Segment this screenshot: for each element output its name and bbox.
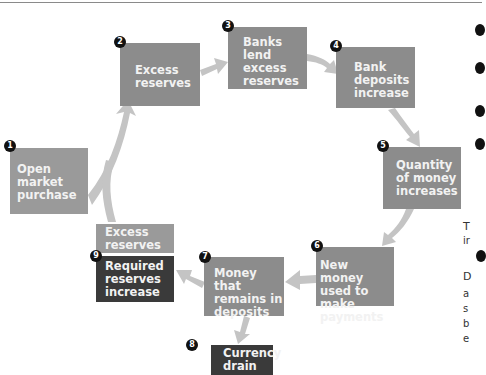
step-4-label: Bank deposits increase: [354, 61, 415, 100]
step-7-money-remains-in-deposits: Money that remains in deposits: [204, 257, 284, 316]
arrow-5-to-6: [382, 209, 414, 246]
step-5-badge: 5: [377, 140, 389, 152]
side-text-line: e: [463, 333, 469, 344]
step-1-label: Open market purchase: [17, 163, 88, 202]
step-7-label: Money that remains in deposits: [214, 267, 284, 319]
step-4-bank-deposits-increase: Bank deposits increase: [336, 47, 415, 108]
step-5-label: Quantity of money increases: [396, 159, 461, 198]
step-6-label: New money used to make payments: [320, 259, 394, 324]
side-badge-1: [475, 24, 485, 36]
step-7-badge: 7: [199, 251, 211, 263]
side-text-line: b: [463, 318, 469, 329]
step-9-required-reserves-increase: Required reserves increase: [96, 256, 174, 302]
step-1-open-market-purchase: Open market purchase: [10, 148, 88, 214]
step-9-label: Required reserves increase: [105, 260, 174, 299]
step-8-currency-drain: Currency drain: [211, 345, 273, 375]
step-9-top-label: Excess reserves: [105, 226, 174, 252]
side-badge-2: [475, 62, 485, 74]
step-4-badge: 4: [330, 40, 342, 52]
side-text-line: a: [463, 288, 469, 299]
side-text-line: ir: [463, 235, 470, 246]
step-9-excess-reserves: Excess reserves: [96, 224, 174, 253]
arrow-3-to-4: [307, 54, 338, 74]
step-8-badge: 8: [186, 339, 198, 351]
step-2-excess-reserves: Excess reserves: [120, 43, 200, 106]
step-3-banks-lend: Banks lend excess reserves: [228, 27, 307, 89]
step-2-badge: 2: [114, 36, 126, 48]
arrow-9-loop: [102, 160, 116, 222]
step-1-badge: 1: [4, 140, 16, 152]
side-text-line: s: [463, 303, 468, 314]
arrow-6-to-7: [285, 270, 316, 290]
step-2-label: Excess reserves: [135, 64, 200, 90]
step-3-label: Banks lend excess reserves: [243, 36, 307, 88]
side-text-line: D: [463, 270, 471, 283]
step-6-new-money-payments: New money used to make payments: [316, 247, 394, 306]
step-9-badge: 9: [90, 250, 102, 262]
arrow-2-to-3: [200, 58, 228, 76]
side-badge-5: [476, 250, 486, 262]
step-5-quantity-of-money-increases: Quantity of money increases: [383, 147, 461, 209]
step-8-label: Currency drain: [223, 347, 273, 373]
side-text-line: T: [463, 220, 470, 233]
step-3-badge: 3: [222, 20, 234, 32]
arrow-7-to-9: [176, 270, 205, 288]
step-6-badge: 6: [311, 240, 323, 252]
arrow-1-to-2: [88, 100, 136, 205]
arrow-4-to-5: [388, 108, 420, 147]
side-badge-3: [475, 105, 485, 117]
arrow-7-to-8: [234, 316, 250, 344]
side-badge-4: [475, 138, 485, 150]
